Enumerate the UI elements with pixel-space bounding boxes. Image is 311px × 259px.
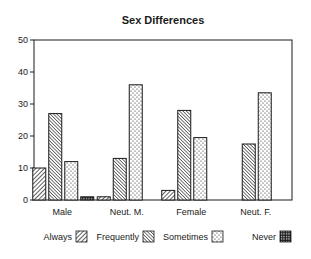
x-axis-labels: MaleNeut. M.FemaleNeut. F. — [52, 207, 271, 217]
legend-label-always: Always — [43, 232, 72, 242]
legend-label-sometimes: Sometimes — [163, 232, 209, 242]
bar-chart: Sex Differences 01020304050 MaleNeut. M.… — [0, 0, 311, 259]
legend-swatch-frequently-icon — [143, 231, 154, 242]
legend-swatch-sometimes-icon — [212, 231, 223, 242]
y-tick-label: 10 — [18, 163, 28, 173]
bar-always-neut-m — [97, 197, 110, 200]
bar-frequently-male — [49, 114, 62, 200]
x-category-label: Male — [52, 207, 72, 217]
y-axis: 01020304050 — [18, 35, 34, 205]
legend-label-never: Never — [252, 232, 276, 242]
bar-sometimes-female — [194, 138, 207, 200]
bar-always-male — [33, 168, 46, 200]
y-tick-label: 50 — [18, 35, 28, 45]
y-tick-label: 20 — [18, 131, 28, 141]
bar-frequently-neut-f — [242, 144, 255, 200]
bar-sometimes-neut-f — [258, 93, 271, 200]
bar-sometimes-male — [65, 162, 78, 200]
bar-frequently-female — [178, 110, 191, 200]
bar-sometimes-neut-m — [129, 85, 142, 200]
y-tick-label: 0 — [23, 195, 28, 205]
chart-title: Sex Differences — [122, 14, 205, 26]
y-tick-label: 30 — [18, 99, 28, 109]
x-category-label: Neut. M. — [110, 207, 144, 217]
legend-swatch-never-icon — [280, 231, 291, 242]
x-category-label: Neut. F. — [240, 207, 271, 217]
legend-swatch-always-icon — [76, 231, 87, 242]
x-category-label: Female — [176, 207, 206, 217]
bar-frequently-neut-m — [113, 158, 126, 200]
legend: AlwaysFrequentlySometimesNever — [43, 231, 291, 242]
plot-area: 01020304050 MaleNeut. M.FemaleNeut. F. — [18, 35, 292, 217]
bar-always-female — [162, 190, 175, 200]
bars — [33, 85, 272, 200]
legend-label-frequently: Frequently — [96, 232, 139, 242]
bar-never-male — [81, 197, 94, 200]
y-tick-label: 40 — [18, 67, 28, 77]
